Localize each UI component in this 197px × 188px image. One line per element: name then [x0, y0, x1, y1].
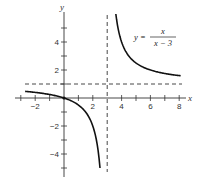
y-tick-label: −2 [50, 122, 60, 131]
y-tick-label: 4 [55, 38, 60, 47]
x-tick-label: −2 [31, 102, 41, 111]
x-tick-label: 4 [119, 102, 124, 111]
formula-numerator: x [160, 26, 165, 36]
x-tick-label: 6 [148, 102, 153, 111]
y-tick-labels: 42−2−4 [50, 38, 60, 159]
y-tick-label: −4 [50, 150, 60, 159]
y-axis-label: y [59, 2, 64, 12]
x-tick-labels: −22468 [31, 102, 182, 111]
rational-function-graph: −22468 42−2−4 x y y = x x − 3 [0, 0, 197, 188]
x-axis-label: x [187, 93, 192, 103]
formula-denominator: x − 3 [153, 38, 172, 48]
x-tick-label: 8 [177, 102, 182, 111]
function-annotation: y = x x − 3 [133, 26, 176, 48]
formula-lhs: y = [133, 32, 146, 42]
x-tick-label: 2 [91, 102, 96, 111]
y-tick-label: 2 [55, 66, 60, 75]
origin-point [62, 96, 65, 99]
